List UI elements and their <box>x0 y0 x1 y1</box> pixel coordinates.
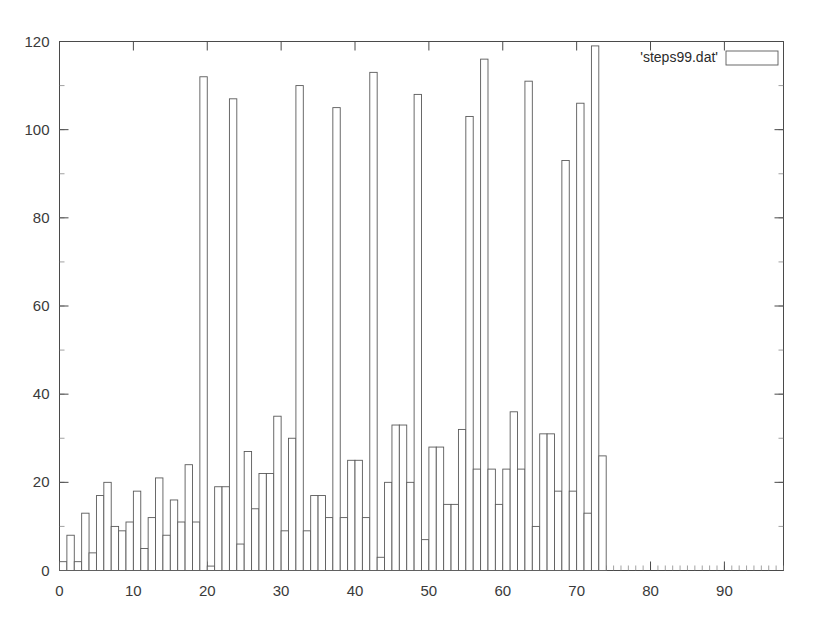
bar <box>562 161 569 571</box>
x-tick-labels: 0102030405060708090 <box>55 582 732 599</box>
bar <box>473 469 480 570</box>
bar <box>495 504 502 570</box>
bar <box>325 518 332 571</box>
legend-label: 'steps99.dat' <box>640 49 718 65</box>
y-tick-label: 100 <box>24 121 49 138</box>
bar <box>200 77 207 571</box>
bar <box>584 513 591 570</box>
bar <box>229 99 236 571</box>
bar <box>133 491 140 570</box>
bar <box>525 81 532 570</box>
bar <box>74 562 81 571</box>
bar <box>274 416 281 570</box>
y-tick-label: 20 <box>33 473 50 490</box>
bar <box>444 504 451 570</box>
bar <box>422 540 429 571</box>
bar <box>540 434 547 571</box>
x-tick-label: 10 <box>125 582 142 599</box>
bar <box>451 504 458 570</box>
bar <box>60 562 67 571</box>
bar <box>429 447 436 570</box>
bar <box>370 72 377 570</box>
y-tick-label: 40 <box>33 385 50 402</box>
bar <box>481 59 488 570</box>
bar <box>407 482 414 570</box>
bar <box>178 522 185 570</box>
bar <box>281 531 288 571</box>
bar <box>259 474 266 571</box>
bar <box>170 500 177 571</box>
bar <box>303 531 310 571</box>
bar <box>311 496 318 571</box>
bar <box>192 522 199 570</box>
x-tick-label: 70 <box>568 582 585 599</box>
bar <box>377 557 384 570</box>
bar <box>67 535 74 570</box>
bar <box>488 469 495 570</box>
legend-swatch <box>726 51 778 65</box>
bar <box>547 434 554 571</box>
bar <box>466 116 473 570</box>
bar <box>141 548 148 570</box>
x-tick-label: 60 <box>494 582 511 599</box>
bar <box>333 108 340 571</box>
bar <box>399 425 406 570</box>
bar <box>296 86 303 571</box>
chart-canvas: 020406080100120 0102030405060708090 'ste… <box>0 0 821 627</box>
x-tick-label: 40 <box>347 582 364 599</box>
bar <box>148 518 155 571</box>
bar <box>318 496 325 571</box>
bar <box>266 474 273 571</box>
bar <box>577 103 584 570</box>
bar <box>554 491 561 570</box>
x-tick-label: 50 <box>421 582 438 599</box>
bar <box>215 487 222 571</box>
x-tick-label: 20 <box>199 582 216 599</box>
y-tick-label: 0 <box>41 562 49 579</box>
bar <box>244 451 251 570</box>
bar <box>89 553 96 571</box>
x-tick-label: 80 <box>642 582 659 599</box>
x-tick-label: 30 <box>273 582 290 599</box>
bar <box>569 491 576 570</box>
bar <box>126 522 133 570</box>
bar <box>289 438 296 570</box>
chart-legend: 'steps99.dat' <box>640 49 778 65</box>
bar <box>355 460 362 570</box>
bar <box>510 412 517 571</box>
bar <box>156 478 163 571</box>
bar <box>340 518 347 571</box>
bar <box>163 535 170 570</box>
bar <box>207 566 214 570</box>
bar <box>104 482 111 570</box>
bar <box>591 46 598 571</box>
x-tick-label: 0 <box>55 582 63 599</box>
bar <box>458 429 465 570</box>
y-tick-labels: 020406080100120 <box>24 33 49 579</box>
bar <box>392 425 399 570</box>
x-tick-label: 90 <box>716 582 733 599</box>
bar <box>436 447 443 570</box>
y-tick-label: 80 <box>33 209 50 226</box>
bar <box>222 487 229 571</box>
bar <box>385 482 392 570</box>
bar <box>348 460 355 570</box>
bar <box>82 513 89 570</box>
bar <box>414 94 421 570</box>
bar <box>503 469 510 570</box>
bar <box>119 531 126 571</box>
bar <box>185 465 192 571</box>
bar-series-steps99 <box>60 46 607 571</box>
bar <box>96 496 103 571</box>
y-tick-label: 120 <box>24 33 49 50</box>
gnuplot-histogram-chart: 020406080100120 0102030405060708090 'ste… <box>0 0 821 627</box>
y-tick-label: 60 <box>33 297 50 314</box>
bar <box>362 518 369 571</box>
bar <box>237 544 244 570</box>
bar <box>532 526 539 570</box>
bar <box>599 456 606 571</box>
bar <box>252 509 259 571</box>
bar <box>518 469 525 570</box>
bar <box>111 526 118 570</box>
